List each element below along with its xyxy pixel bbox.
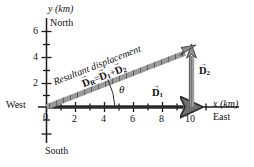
x-tick-label-10: 10	[185, 114, 195, 124]
vector-d1-label: D1	[152, 88, 163, 99]
vector-d2-subscript: 2	[207, 69, 211, 77]
vector-d2	[187, 44, 197, 107]
x-tick-label-8: 8	[159, 114, 164, 124]
diagram-canvas	[0, 0, 254, 167]
compass-east-label: East	[213, 112, 230, 122]
vector-d1-symbol: D	[152, 88, 160, 99]
compass-south-label: South	[45, 146, 68, 156]
y-tick-label-4: 4	[33, 52, 38, 62]
y-tick-label-2: 2	[33, 78, 38, 88]
angle-theta-label: θ	[119, 84, 124, 95]
y-tick-label-6: 6	[33, 26, 38, 36]
x-tick-label-0: 0	[43, 112, 48, 122]
y-axis-label: y (km)	[48, 4, 73, 14]
compass-west-label: West	[6, 100, 26, 110]
vector-d2-symbol: D	[199, 66, 207, 77]
vector-d2-label: D2	[199, 66, 210, 77]
x-tick-label-4: 4	[101, 114, 106, 124]
vector-diagram-figure: y (km) x (km) North South East West 0 2 …	[0, 0, 254, 167]
compass-north-label: North	[50, 18, 73, 28]
vector-d1-subscript: 1	[160, 91, 164, 99]
x-tick-label-6: 6	[130, 114, 135, 124]
y-axis	[42, 18, 52, 143]
x-axis-label: x (km)	[213, 99, 238, 109]
x-tick-label-2: 2	[72, 114, 77, 124]
